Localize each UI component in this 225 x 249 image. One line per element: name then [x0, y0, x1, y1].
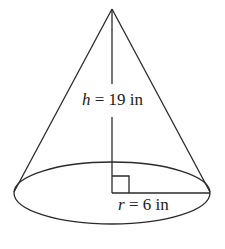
height-value: 19 in — [109, 90, 144, 109]
radius-equals: = — [125, 195, 143, 214]
height-symbol: h — [82, 90, 91, 109]
right-angle-marker — [112, 176, 129, 193]
cone-diagram: h = 19 in r = 6 in — [0, 0, 225, 249]
radius-value: 6 in — [143, 195, 169, 214]
height-label: h = 19 in — [82, 90, 144, 109]
radius-label: r = 6 in — [118, 195, 169, 214]
height-equals: = — [91, 90, 109, 109]
